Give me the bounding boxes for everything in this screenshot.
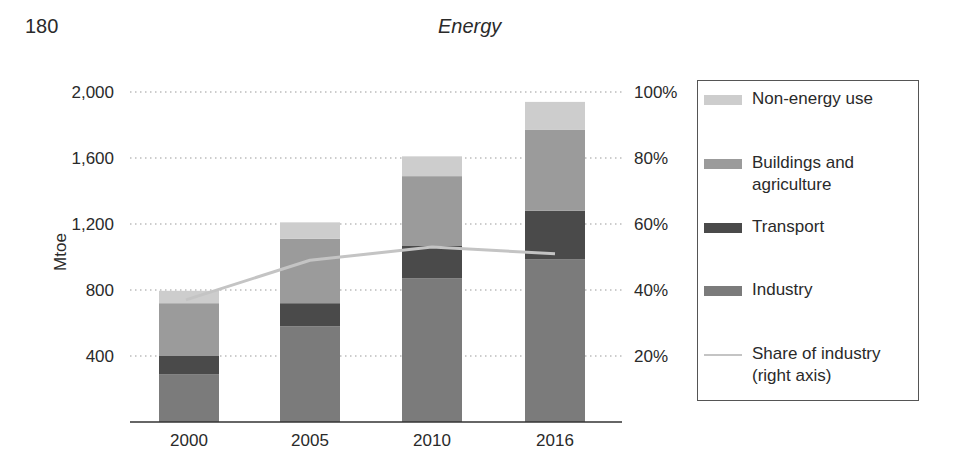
legend-label: Transport [752, 216, 912, 238]
share-line-path [186, 247, 555, 300]
y-tick-label: 2,000 [71, 83, 114, 102]
y-right-tick-label: 60% [634, 215, 668, 234]
share-of-industry-line [186, 247, 555, 300]
legend-swatch-non-energy [704, 95, 742, 105]
legend-item-non-energy: Non-energy use [704, 88, 912, 110]
legend-swatch-industry [704, 286, 742, 296]
y-right-tick-label: 20% [634, 347, 668, 366]
bar-segment-transport [280, 303, 340, 326]
bar-segment-buildings [159, 303, 219, 356]
x-tick-label: 2016 [536, 431, 574, 450]
x-tick-label: 2000 [170, 431, 208, 450]
bar-segment-non_energy [525, 102, 585, 130]
legend-swatch-transport [704, 223, 742, 233]
legend-label: Share of industry (right axis) [752, 343, 912, 387]
legend-label: Non-energy use [752, 88, 912, 110]
bar-segment-transport [159, 356, 219, 374]
x-tick-label: 2005 [291, 431, 329, 450]
y-tick-label: 1,200 [71, 215, 114, 234]
bar-segment-non_energy [280, 222, 340, 239]
legend-item-buildings: Buildings and agriculture [704, 152, 912, 196]
y-tick-label: 400 [86, 347, 114, 366]
bar-segment-buildings [525, 130, 585, 211]
bar-segment-buildings [280, 239, 340, 303]
legend-label: Industry [752, 279, 912, 301]
bar-segment-industry [402, 278, 462, 422]
legend-item-share-of-industry: Share of industry (right axis) [704, 343, 912, 387]
bars [159, 102, 585, 422]
legend-line-share [704, 354, 742, 356]
x-tick-label: 2010 [413, 431, 451, 450]
bar-segment-industry [525, 259, 585, 422]
y-tick-label: 1,600 [71, 149, 114, 168]
legend-item-industry: Industry [704, 279, 912, 301]
y-right-tick-label: 100% [634, 83, 677, 102]
legend-item-transport: Transport [704, 216, 912, 238]
y-tick-label: 800 [86, 281, 114, 300]
y-axis-label: Mtoe [51, 233, 70, 271]
bar-segment-industry [280, 326, 340, 422]
legend: Non-energy use Buildings and agriculture… [697, 80, 919, 401]
bar-segment-industry [159, 374, 219, 422]
legend-swatch-buildings [704, 159, 742, 169]
legend-label: Buildings and agriculture [752, 152, 912, 196]
y-right-tick-label: 80% [634, 149, 668, 168]
bar-segment-buildings [402, 176, 462, 245]
bar-segment-non_energy [402, 156, 462, 176]
y-right-tick-label: 40% [634, 281, 668, 300]
